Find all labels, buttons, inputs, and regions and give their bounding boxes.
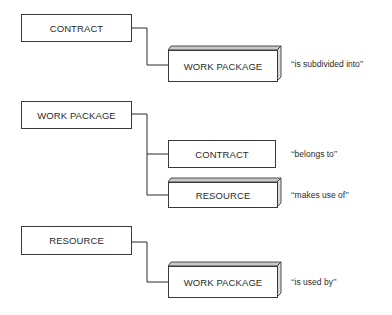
entity-box-resource: RESOURCE — [21, 226, 132, 255]
relationship-label: ‘‘belongs to’’ — [291, 149, 337, 159]
entity-box-resource: RESOURCE — [168, 182, 278, 208]
entity-box-work-package: WORK PACKAGE — [21, 101, 132, 129]
connector-work-package-to-resource — [147, 154, 168, 195]
relationship-label: ‘‘makes use of’’ — [291, 190, 349, 200]
entity-box-work-package: WORK PACKAGE — [168, 50, 278, 82]
connector-contract-to-work-package — [131, 28, 168, 65]
relationship-label: ‘‘is subdivided into’’ — [291, 59, 363, 69]
connector-work-package-to-contract — [131, 114, 168, 154]
connector-resource-to-work-package — [131, 242, 168, 282]
entity-box-work-package: WORK PACKAGE — [168, 266, 278, 298]
entity-box-contract: CONTRACT — [168, 140, 276, 168]
relationship-label: ‘‘is used by’’ — [291, 277, 337, 287]
entity-box-contract: CONTRACT — [21, 14, 132, 42]
